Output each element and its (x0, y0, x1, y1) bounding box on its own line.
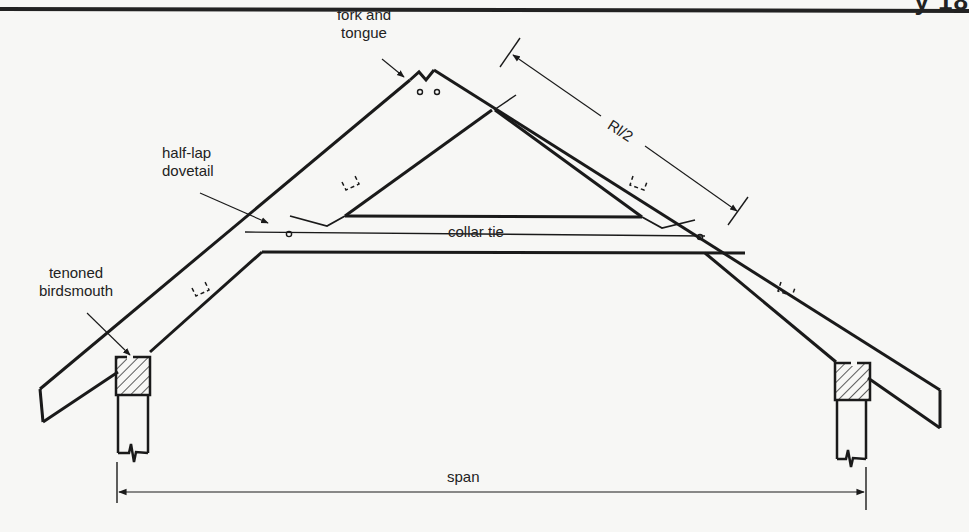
rafter-diagram (0, 0, 969, 532)
label-tenoned-birdsmouth-line2: birdsmouth (24, 282, 128, 300)
label-half-lap-dovetail: half-lap dovetail (162, 144, 214, 180)
label-span: span (447, 468, 480, 486)
label-fork-and-tongue-line2: tongue (309, 24, 419, 42)
label-fork-and-tongue-line1: fork and (309, 6, 419, 24)
label-tenoned-birdsmouth: tenoned birdsmouth (24, 264, 128, 300)
label-collar-tie: collar tie (448, 223, 504, 241)
left-wall-post (118, 395, 148, 462)
right-wall-plate (835, 361, 870, 400)
header-rule (0, 9, 969, 11)
right-wall-post (837, 400, 866, 467)
label-half-lap-dovetail-line1: half-lap (162, 144, 214, 162)
span-dimension-line (117, 462, 866, 510)
label-tenoned-birdsmouth-line1: tenoned (24, 264, 128, 282)
label-half-lap-dovetail-line2: dovetail (162, 162, 214, 180)
label-fork-and-tongue: fork and tongue (309, 6, 419, 42)
left-wall-plate (116, 355, 150, 395)
